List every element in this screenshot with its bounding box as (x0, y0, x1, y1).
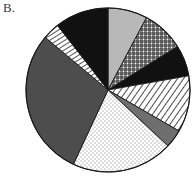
pie-slice-group (26, 8, 190, 172)
pie-chart (0, 0, 196, 182)
figure-panel: B. (0, 0, 196, 182)
